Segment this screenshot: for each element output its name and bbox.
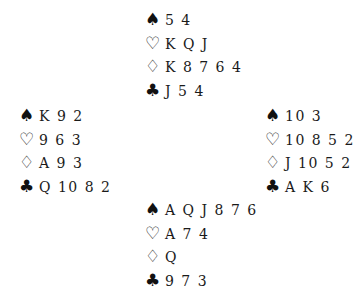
south-spades-row: ♠A Q J 8 7 6 — [145, 198, 258, 222]
east-hearts-row: ♡10 8 5 2 — [265, 128, 355, 152]
north-hand: ♠5 4 ♡K Q J ♢K 8 7 6 4 ♣J 5 4 — [145, 8, 242, 102]
west-diamonds: A 9 3 — [39, 155, 83, 171]
west-diamonds-row: ♢A 9 3 — [19, 151, 111, 175]
south-spades: A Q J 8 7 6 — [165, 202, 258, 218]
north-spades-row: ♠5 4 — [145, 8, 242, 32]
east-hearts: 10 8 5 2 — [285, 132, 355, 148]
heart-icon: ♡ — [145, 222, 165, 246]
north-hearts-row: ♡K Q J — [145, 32, 242, 56]
south-clubs-row: ♣9 7 3 — [145, 269, 258, 293]
east-hand: ♠10 3 ♡10 8 5 2 ♢J 10 5 2 ♣A K 6 — [265, 104, 355, 198]
east-spades: 10 3 — [285, 108, 322, 124]
club-icon: ♣ — [265, 175, 285, 199]
west-hand: ♠K 9 2 ♡9 6 3 ♢A 9 3 ♣Q 10 8 2 — [19, 104, 111, 198]
south-diamonds: Q — [165, 249, 178, 265]
spade-icon: ♠ — [145, 198, 165, 222]
east-clubs: A K 6 — [285, 179, 331, 195]
spade-icon: ♠ — [19, 104, 39, 128]
north-diamonds-row: ♢K 8 7 6 4 — [145, 55, 242, 79]
west-hearts: 9 6 3 — [39, 132, 82, 148]
east-diamonds-row: ♢J 10 5 2 — [265, 151, 355, 175]
south-hand: ♠A Q J 8 7 6 ♡A 7 4 ♢Q ♣9 7 3 — [145, 198, 258, 292]
heart-icon: ♡ — [19, 128, 39, 152]
club-icon: ♣ — [19, 175, 39, 199]
west-clubs: Q 10 8 2 — [39, 179, 111, 195]
north-hearts: K Q J — [165, 36, 209, 52]
south-clubs: 9 7 3 — [165, 273, 208, 289]
heart-icon: ♡ — [265, 128, 285, 152]
west-spades-row: ♠K 9 2 — [19, 104, 111, 128]
north-clubs-row: ♣J 5 4 — [145, 79, 242, 103]
south-hearts: A 7 4 — [165, 226, 209, 242]
west-clubs-row: ♣Q 10 8 2 — [19, 175, 111, 199]
south-diamonds-row: ♢Q — [145, 245, 258, 269]
heart-icon: ♡ — [145, 32, 165, 56]
club-icon: ♣ — [145, 269, 165, 293]
north-diamonds: K 8 7 6 4 — [165, 59, 242, 75]
south-hearts-row: ♡A 7 4 — [145, 222, 258, 246]
east-clubs-row: ♣A K 6 — [265, 175, 355, 199]
diamond-icon: ♢ — [19, 151, 39, 175]
east-diamonds: J 10 5 2 — [285, 155, 352, 171]
east-spades-row: ♠10 3 — [265, 104, 355, 128]
club-icon: ♣ — [145, 79, 165, 103]
diamond-icon: ♢ — [265, 151, 285, 175]
spade-icon: ♠ — [265, 104, 285, 128]
diamond-icon: ♢ — [145, 55, 165, 79]
diamond-icon: ♢ — [145, 245, 165, 269]
north-clubs: J 5 4 — [165, 83, 205, 99]
west-hearts-row: ♡9 6 3 — [19, 128, 111, 152]
north-spades: 5 4 — [165, 12, 192, 28]
spade-icon: ♠ — [145, 8, 165, 32]
west-spades: K 9 2 — [39, 108, 84, 124]
